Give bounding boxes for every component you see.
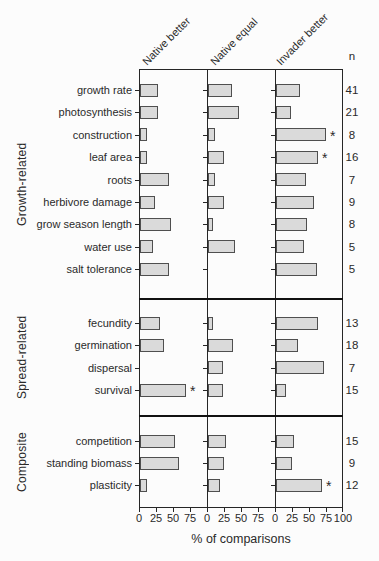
comparison-bar-chart-figure: Native better Native equal Invader bette… xyxy=(0,0,379,561)
n-value: 8 xyxy=(340,217,364,231)
n-value: 7 xyxy=(340,361,364,375)
bar-native-better xyxy=(140,196,155,209)
row-axis-tick xyxy=(271,112,275,113)
row-axis-tick xyxy=(271,157,275,158)
row-axis-tick xyxy=(135,135,139,136)
plot-area: **** xyxy=(139,69,343,508)
bar-invader-better xyxy=(276,84,300,97)
row-axis-tick xyxy=(203,269,207,270)
row-axis-tick xyxy=(135,441,139,442)
row-axis-tick xyxy=(203,368,207,369)
row-axis-tick xyxy=(135,224,139,225)
bar-native-equal xyxy=(208,384,223,397)
significance-asterisk: * xyxy=(330,128,335,142)
row-axis-tick xyxy=(135,247,139,248)
row-axis-tick xyxy=(135,368,139,369)
bar-invader-better xyxy=(276,263,317,276)
bar-native-equal xyxy=(208,218,213,231)
bar-invader-better xyxy=(276,128,326,141)
row-axis-tick xyxy=(271,441,275,442)
bar-invader-better xyxy=(276,339,298,352)
bar-native-better xyxy=(140,151,147,164)
n-value: 8 xyxy=(340,128,364,142)
bar-native-better xyxy=(140,479,147,492)
bar-native-better xyxy=(140,128,147,141)
n-value: 13 xyxy=(340,316,364,330)
row-axis-tick xyxy=(271,463,275,464)
bar-native-better xyxy=(140,457,179,470)
row-axis-tick xyxy=(203,135,207,136)
row-axis-tick xyxy=(203,180,207,181)
row-axis-tick xyxy=(135,463,139,464)
bar-invader-better xyxy=(276,173,306,186)
bar-native-equal xyxy=(208,457,224,470)
n-value: 5 xyxy=(340,262,364,276)
row-axis-tick xyxy=(271,345,275,346)
row-axis-tick xyxy=(203,485,207,486)
row-axis-tick xyxy=(271,485,275,486)
bar-native-better xyxy=(140,339,164,352)
row-axis-tick xyxy=(135,485,139,486)
row-axis-tick xyxy=(271,90,275,91)
bar-native-equal xyxy=(208,240,235,253)
row-axis-tick xyxy=(271,323,275,324)
bar-invader-better xyxy=(276,361,324,374)
row-axis-tick xyxy=(135,323,139,324)
n-value: 7 xyxy=(340,173,364,187)
bar-native-equal xyxy=(208,128,215,141)
row-axis-tick xyxy=(271,247,275,248)
n-value: 18 xyxy=(340,338,364,352)
x-tick-label: 100 xyxy=(331,512,355,524)
row-axis-tick xyxy=(271,269,275,270)
n-value: 21 xyxy=(340,105,364,119)
bar-invader-better xyxy=(276,317,318,330)
column-header-native-better: Native better xyxy=(140,15,193,68)
category-label: fecundity xyxy=(0,316,132,330)
category-label: water use xyxy=(0,240,132,254)
category-label: grow season length xyxy=(0,217,132,231)
bar-native-better xyxy=(140,317,160,330)
bar-native-equal xyxy=(208,151,224,164)
x-axis-label: % of comparisons xyxy=(139,532,343,546)
plot-top-border xyxy=(139,69,343,70)
bar-native-better xyxy=(140,384,186,397)
n-value: 9 xyxy=(340,456,364,470)
bar-invader-better xyxy=(276,106,291,119)
bar-native-equal xyxy=(208,317,213,330)
bar-native-equal xyxy=(208,339,233,352)
row-axis-tick xyxy=(271,224,275,225)
significance-asterisk: * xyxy=(326,478,331,492)
category-label: competition xyxy=(0,434,132,448)
category-label: construction xyxy=(0,128,132,142)
row-axis-tick xyxy=(203,90,207,91)
row-axis-tick xyxy=(203,390,207,391)
row-axis-tick xyxy=(203,345,207,346)
category-label: dispersal xyxy=(0,361,132,375)
bar-invader-better xyxy=(276,435,294,448)
n-value: 15 xyxy=(340,383,364,397)
row-axis-tick xyxy=(135,390,139,391)
row-axis-tick xyxy=(135,180,139,181)
bar-native-equal xyxy=(208,361,223,374)
category-label: plasticity xyxy=(0,478,132,492)
bar-native-better xyxy=(140,263,169,276)
bar-native-better xyxy=(140,106,158,119)
row-axis-tick xyxy=(135,202,139,203)
bar-invader-better xyxy=(276,384,286,397)
bar-invader-better xyxy=(276,479,322,492)
row-axis-tick xyxy=(203,441,207,442)
row-axis-tick xyxy=(135,269,139,270)
n-value: 41 xyxy=(340,83,364,97)
category-label: survival xyxy=(0,383,132,397)
row-axis-tick xyxy=(203,463,207,464)
bar-native-better xyxy=(140,84,158,97)
category-label: salt tolerance xyxy=(0,262,132,276)
bar-native-equal xyxy=(208,173,215,186)
row-axis-tick xyxy=(271,135,275,136)
row-axis-tick xyxy=(203,202,207,203)
row-axis-tick xyxy=(203,323,207,324)
bar-invader-better xyxy=(276,218,307,231)
row-axis-tick xyxy=(135,112,139,113)
bar-native-better xyxy=(140,435,175,448)
category-label: roots xyxy=(0,173,132,187)
